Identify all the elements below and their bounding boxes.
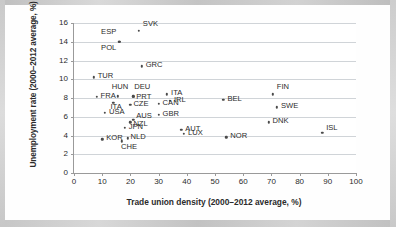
data-point — [157, 114, 159, 116]
x-tick-label: 10 — [98, 178, 107, 186]
data-point-label: USA — [109, 108, 125, 116]
x-tick-label: 70 — [267, 178, 276, 186]
x-axis-title: Trade union density (2000–2012 average, … — [73, 197, 355, 207]
y-gridline — [74, 42, 356, 43]
x-tick-mark — [159, 173, 160, 176]
data-point-label: TUR — [98, 72, 114, 80]
data-point-label: SVK — [143, 20, 158, 28]
y-tick-label: 10 — [59, 75, 68, 83]
data-point — [126, 137, 128, 139]
y-tick-mark — [71, 42, 74, 43]
x-tick-mark — [187, 173, 188, 176]
data-point — [101, 138, 103, 140]
y-tick-label: 8 — [64, 94, 68, 102]
data-point-label: ISL — [326, 124, 337, 132]
y-gridline — [74, 154, 356, 155]
x-tick-label: 60 — [239, 178, 248, 186]
scatter-plot-area: 02468101214160102030405060708090100SVKES… — [73, 23, 356, 174]
x-tick-mark — [130, 173, 131, 176]
data-point-label: LUX — [188, 129, 203, 137]
x-tick-mark — [215, 173, 216, 176]
data-point-label: AUS — [136, 112, 152, 120]
y-axis-title: Unemployment rate (2000–2012 average, %) — [29, 8, 38, 168]
y-tick-label: 14 — [59, 38, 68, 46]
x-tick-mark — [74, 173, 75, 176]
data-point — [272, 93, 274, 95]
x-tick-label: 0 — [72, 178, 76, 186]
data-point-label: NOR — [230, 132, 247, 140]
data-point — [129, 103, 131, 105]
y-gridline — [74, 79, 356, 80]
y-tick-label: 2 — [64, 150, 68, 158]
data-point — [267, 121, 269, 123]
data-point — [222, 99, 224, 101]
chart-canvas: Unemployment rate (2000–2012 average, %)… — [5, 5, 390, 220]
data-point-label: POL — [101, 44, 116, 52]
x-tick-mark — [356, 173, 357, 176]
y-tick-mark — [71, 98, 74, 99]
data-point — [138, 29, 140, 31]
y-tick-label: 4 — [64, 132, 68, 140]
x-tick-mark — [300, 173, 301, 176]
x-tick-label: 30 — [154, 178, 163, 186]
scanned-figure: Unemployment rate (2000–2012 average, %)… — [0, 0, 396, 227]
y-gridline — [74, 98, 356, 99]
y-gridline — [74, 117, 356, 118]
x-tick-label: 40 — [182, 178, 191, 186]
data-point-label: JPN — [129, 123, 143, 131]
data-point-label: CZE — [133, 100, 148, 108]
x-tick-mark — [271, 173, 272, 176]
data-point-label: FRA — [101, 92, 116, 100]
y-tick-mark — [71, 61, 74, 62]
y-tick-label: 0 — [64, 169, 68, 177]
y-tick-label: 12 — [59, 57, 68, 65]
scan-edge-right — [390, 0, 396, 227]
data-point — [157, 102, 159, 104]
data-point — [93, 76, 95, 78]
y-gridline — [74, 61, 356, 62]
x-tick-label: 80 — [295, 178, 304, 186]
y-gridline — [74, 23, 356, 24]
data-point — [180, 129, 182, 131]
data-point-label: DNK — [273, 117, 289, 125]
data-point-label: GRC — [146, 61, 163, 69]
data-point — [104, 112, 106, 114]
data-point-label: NLD — [131, 133, 146, 141]
data-point — [225, 136, 227, 138]
y-tick-label: 16 — [59, 19, 68, 27]
y-tick-mark — [71, 136, 74, 137]
data-point-label: GBR — [163, 110, 179, 118]
data-point-label: ESP — [101, 28, 116, 36]
data-point — [276, 106, 278, 108]
data-point-label: HUN — [112, 83, 128, 91]
y-tick-mark — [71, 23, 74, 24]
data-point-label: FIN — [277, 83, 289, 91]
y-tick-mark — [71, 79, 74, 80]
x-tick-mark — [243, 173, 244, 176]
x-tick-label: 100 — [349, 178, 362, 186]
data-point — [166, 93, 168, 95]
x-tick-label: 20 — [126, 178, 135, 186]
data-point-label: SWE — [281, 102, 298, 110]
data-point — [117, 95, 119, 97]
x-tick-mark — [102, 173, 103, 176]
data-point-label: CHE — [121, 143, 137, 151]
x-tick-mark — [328, 173, 329, 176]
scan-edge-bottom — [0, 220, 396, 227]
data-point-label: CAN — [163, 99, 179, 107]
y-tick-label: 6 — [64, 113, 68, 121]
data-point — [124, 127, 126, 129]
x-tick-label: 90 — [323, 178, 332, 186]
data-point — [140, 65, 142, 67]
data-point-label: BEL — [227, 95, 241, 103]
data-point-label: DEU — [134, 83, 150, 91]
data-point — [321, 131, 323, 133]
x-tick-label: 50 — [211, 178, 220, 186]
y-tick-mark — [71, 154, 74, 155]
y-tick-mark — [71, 117, 74, 118]
